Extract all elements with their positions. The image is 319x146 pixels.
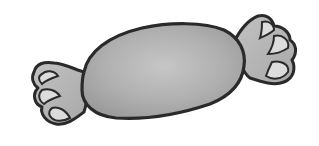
candy-illustration: wrapped candy — [0, 0, 319, 146]
candy-body — [82, 24, 244, 119]
candy-drawing — [0, 0, 319, 146]
left-wrapper — [33, 62, 87, 124]
